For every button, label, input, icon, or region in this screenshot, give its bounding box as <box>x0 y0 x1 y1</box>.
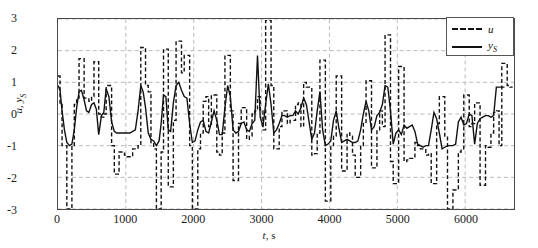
legend-item-ys: yS <box>447 37 513 56</box>
legend-solid-line-icon <box>452 43 482 51</box>
x-tick-label: 5000 <box>368 213 428 225</box>
series-u <box>58 21 513 209</box>
y-axis-label-symbol: u, y <box>12 98 24 114</box>
x-tick-label: 4000 <box>300 213 360 225</box>
y-tick-label: -2 <box>0 172 17 184</box>
y-axis-label: u, yS <box>12 64 27 144</box>
x-tick-label: 1000 <box>95 213 155 225</box>
x-tick-label: 2000 <box>163 213 223 225</box>
legend-label-ys-subscript: S <box>493 45 497 54</box>
figure-container: -3-2-10123 0100020003000400050006000 u, … <box>0 0 538 248</box>
x-tick-label: 6000 <box>436 213 496 225</box>
x-tick-label: 3000 <box>231 213 291 225</box>
y-tick-label: 2 <box>0 44 17 56</box>
x-axis-label-unit: , s <box>266 229 276 241</box>
legend: u yS <box>446 17 514 56</box>
legend-dashed-line-icon <box>452 25 482 33</box>
y-tick-label: 3 <box>0 12 17 24</box>
y-axis-label-subscript: S <box>19 94 28 98</box>
x-tick-label: 0 <box>27 213 87 225</box>
legend-item-u: u <box>447 19 513 38</box>
series-y_S <box>58 55 505 148</box>
x-axis-label: t, s <box>0 229 538 241</box>
legend-label-ys: yS <box>488 39 497 54</box>
y-tick-label: -3 <box>0 204 17 216</box>
legend-label-u: u <box>488 23 494 35</box>
